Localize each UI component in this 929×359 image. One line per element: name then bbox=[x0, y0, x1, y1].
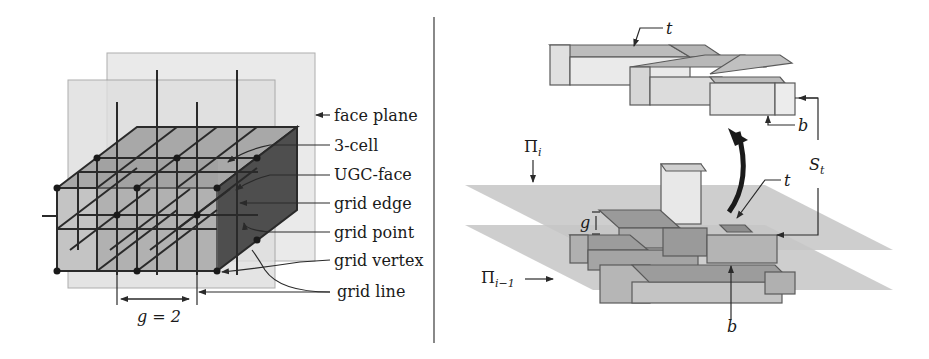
label-grid-line: grid line bbox=[337, 282, 405, 301]
label-t-bottom: t bbox=[784, 171, 791, 190]
label-spacing: g = 2 bbox=[137, 307, 181, 326]
label-grid-edge: grid edge bbox=[334, 194, 412, 213]
label-pi-i-minus-1: Πi−1 bbox=[481, 268, 515, 290]
label-pi-i: Πi bbox=[524, 137, 541, 159]
left-grid-diagram: face plane 3-cell UGC-face grid edge gri… bbox=[42, 53, 423, 326]
label-b-top: b bbox=[798, 116, 808, 135]
figure-canvas: face plane 3-cell UGC-face grid edge gri… bbox=[0, 0, 929, 359]
label-b-bottom: b bbox=[727, 317, 737, 336]
label-t-top: t bbox=[666, 19, 673, 38]
label-face-plane: face plane bbox=[334, 106, 418, 125]
right-slab-diagram: g t b St t b Πi Πi−1 bbox=[465, 19, 893, 336]
label-g: g bbox=[580, 213, 590, 232]
lift-arrowhead bbox=[728, 128, 748, 146]
label-3-cell: 3-cell bbox=[334, 136, 378, 155]
label-ugc-face: UGC-face bbox=[334, 165, 412, 184]
label-grid-vertex: grid vertex bbox=[334, 251, 423, 270]
label-S-t: St bbox=[809, 155, 825, 177]
top-structure bbox=[550, 45, 795, 115]
label-grid-point: grid point bbox=[334, 223, 415, 242]
